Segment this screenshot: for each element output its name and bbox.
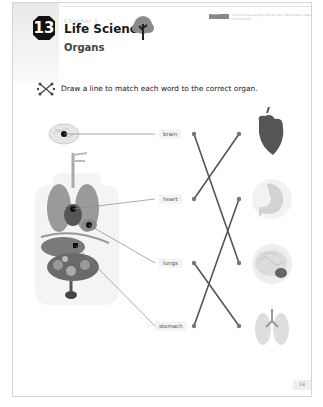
right-dot-heart[interactable] — [237, 132, 241, 136]
stomach-image — [252, 179, 292, 219]
match-dots — [192, 132, 241, 328]
label-stomach: stomach — [155, 322, 187, 331]
left-dot-lungs[interactable] — [192, 261, 196, 265]
right-dot-brain[interactable] — [237, 261, 241, 265]
right-dot-stomach[interactable] — [237, 197, 241, 201]
brain-image — [252, 244, 292, 284]
worksheet-page: 13 Chapter 1 Life Science Organs Skills … — [12, 2, 312, 397]
match-lines — [194, 134, 239, 326]
left-dot-stomach[interactable] — [192, 324, 196, 328]
label-lungs: lungs — [159, 259, 182, 268]
right-dot-lungs[interactable] — [237, 324, 241, 328]
label-brain: brain — [159, 130, 181, 139]
heart-image — [259, 107, 284, 155]
left-dot-heart[interactable] — [192, 197, 196, 201]
left-dot-brain[interactable] — [192, 132, 196, 136]
label-heart: heart — [159, 195, 182, 204]
lungs-image — [255, 309, 289, 345]
body-silhouette — [35, 173, 119, 305]
page-number: 13 — [293, 380, 311, 390]
